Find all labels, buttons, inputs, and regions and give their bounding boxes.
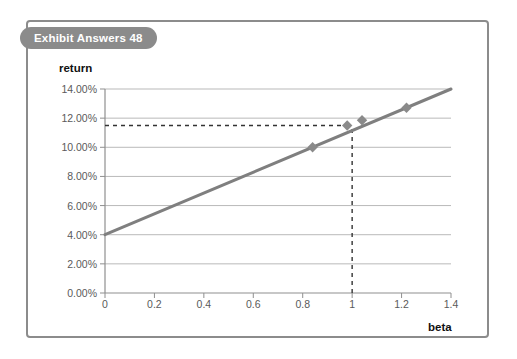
gridlines [105, 89, 451, 264]
axis-lines [105, 89, 451, 293]
plot-canvas [0, 0, 517, 359]
annotation-guides [105, 125, 352, 293]
data-point-marker [307, 142, 317, 152]
security-market-line [105, 89, 451, 235]
exhibit-title-text: Exhibit Answers 48 [34, 32, 143, 44]
data-point-marker [401, 103, 411, 113]
chart-area: return beta 0.00%2.00%4.00%6.00%8.00%10.… [0, 0, 517, 359]
x-axis-tickmarks [105, 293, 451, 298]
sml-line [105, 89, 451, 235]
data-point-marker [342, 120, 352, 130]
y-axis-tickmarks [100, 89, 105, 293]
exhibit-title-badge: Exhibit Answers 48 [20, 27, 157, 49]
